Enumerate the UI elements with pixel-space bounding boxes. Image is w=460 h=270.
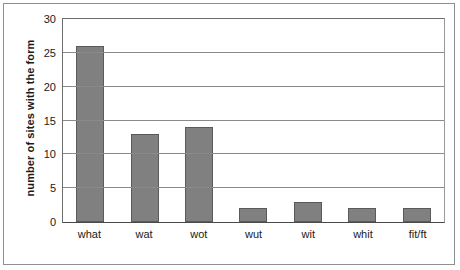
- y-axis-tick-label: 0: [50, 216, 56, 228]
- bar-slot: [172, 19, 226, 222]
- x-axis-tick-label: what: [62, 228, 117, 240]
- x-axis-tick-label: fit/ft: [390, 228, 445, 240]
- y-axis-tick-label: 25: [44, 47, 56, 59]
- bar-slot: [335, 19, 389, 222]
- y-axis-tick-label: 20: [44, 81, 56, 93]
- bar: [185, 127, 213, 222]
- bar-slot: [390, 19, 444, 222]
- bar: [131, 134, 159, 222]
- gridline: [63, 52, 444, 53]
- bar: [348, 208, 376, 222]
- gridline: [63, 187, 444, 188]
- bar-slot: [117, 19, 171, 222]
- x-axis-tick-labels: whatwatwotwutwitwhitfit/ft: [62, 228, 445, 240]
- x-axis-tick-label: wit: [281, 228, 336, 240]
- bar-slot: [226, 19, 280, 222]
- y-axis-tick-label: 5: [50, 182, 56, 194]
- bar-chart-figure: number of sites with the form 0510152025…: [0, 0, 460, 270]
- bar-group: [63, 19, 444, 222]
- x-axis-tick-label: wut: [226, 228, 281, 240]
- bar: [294, 202, 322, 222]
- x-axis-tick-label: wat: [117, 228, 172, 240]
- y-axis-tick-label: 30: [44, 13, 56, 25]
- gridline: [63, 86, 444, 87]
- bar: [239, 208, 267, 222]
- x-axis-tick-label: wot: [171, 228, 226, 240]
- bar-slot: [281, 19, 335, 222]
- y-axis-tick-label: 10: [44, 148, 56, 160]
- y-axis-tick-labels: 051015202530: [26, 18, 56, 223]
- bar-slot: [63, 19, 117, 222]
- bar: [76, 46, 104, 222]
- plot-area: [62, 18, 445, 223]
- gridline: [63, 120, 444, 121]
- gridline: [63, 153, 444, 154]
- y-axis-tick-label: 15: [44, 115, 56, 127]
- bar: [403, 208, 431, 222]
- x-axis-tick-label: whit: [336, 228, 391, 240]
